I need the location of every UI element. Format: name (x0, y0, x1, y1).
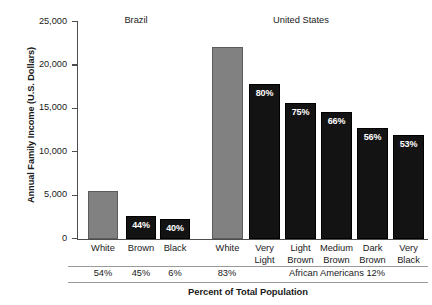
bar: 44% (126, 216, 156, 239)
bar-value-label: 53% (394, 139, 423, 149)
population-rule-bottom (68, 282, 428, 283)
y-axis-title: Annual Family Income (U.S. Dollars) (26, 15, 36, 235)
y-tick-label: 0 (7, 234, 67, 243)
y-tick-mark (72, 108, 77, 109)
y-tick-label: 15,000 (7, 103, 67, 112)
bar: 40% (160, 219, 190, 239)
population-percent-label: 83% (207, 268, 247, 279)
y-tick-mark (72, 238, 77, 239)
bar-value-label: 75% (286, 107, 315, 117)
y-tick-mark (72, 151, 77, 152)
population-rule-top (68, 266, 428, 267)
y-tick-mark (72, 195, 77, 196)
group-title-brazil: Brazil (95, 15, 177, 25)
bar-value-label: 44% (127, 220, 155, 230)
y-tick-label: 5,000 (7, 190, 67, 199)
bar-value-label: 40% (161, 223, 189, 233)
population-percent-label: 6% (155, 268, 195, 279)
bar: 80% (249, 84, 280, 239)
bar: 66% (321, 112, 352, 239)
y-tick-mark (72, 64, 77, 65)
y-tick-label: 25,000 (7, 17, 67, 26)
y-axis-line (77, 21, 78, 239)
y-tick-label: 10,000 (7, 147, 67, 156)
group-title-united-states: United States (255, 15, 347, 25)
population-percent-label: African Americans 12% (249, 268, 425, 279)
bar (88, 191, 118, 239)
category-label: Very Black (385, 243, 432, 266)
bar-value-label: 66% (322, 116, 351, 126)
y-tick-label: 20,000 (7, 60, 67, 69)
bar: 56% (357, 128, 388, 239)
bar-value-label: 56% (358, 132, 387, 142)
bar-value-label: 80% (250, 88, 279, 98)
bar: 75% (285, 103, 316, 239)
category-label: Black (152, 243, 198, 255)
x-axis-title: Percent of Total Population (68, 286, 428, 297)
bar (212, 47, 243, 239)
chart-figure: Annual Family Income (U.S. Dollars) 25,0… (0, 0, 432, 305)
bar: 53% (393, 135, 424, 239)
population-percent-label: 54% (83, 268, 123, 279)
y-tick-mark (72, 21, 77, 22)
